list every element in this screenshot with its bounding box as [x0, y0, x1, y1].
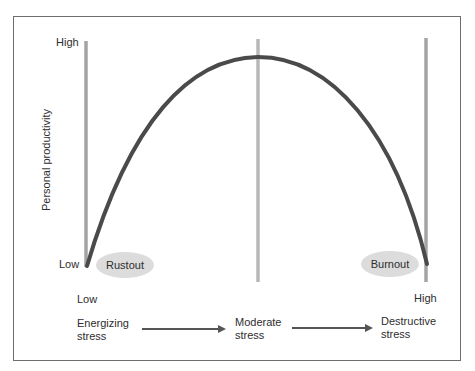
burnout-zone-label: Burnout	[361, 251, 419, 277]
x-axis-high-label: High	[414, 292, 437, 305]
y-axis-title: Personal productivity	[40, 109, 52, 211]
arrow-head-icon	[218, 325, 226, 333]
y-axis-low-label: Low	[59, 258, 79, 271]
moderate-stress-label: Moderate stress	[235, 316, 281, 342]
arrow-head-icon	[365, 324, 373, 332]
x-axis-low-label: Low	[77, 293, 97, 306]
rustout-zone-label: Rustout	[96, 252, 154, 278]
energizing-stress-label: Energizing stress	[77, 317, 129, 343]
y-axis-high-label: High	[56, 36, 79, 49]
destructive-stress-label: Destructive stress	[381, 315, 436, 341]
